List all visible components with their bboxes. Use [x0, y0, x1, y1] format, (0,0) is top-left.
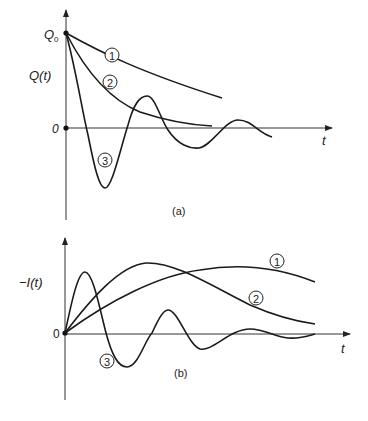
label-a-2: 2: [107, 77, 113, 89]
zero-label-b: 0: [53, 327, 60, 341]
label-b-1: 1: [274, 256, 280, 268]
q0-subscript: 0: [54, 35, 59, 44]
q0-label: Q: [44, 27, 54, 42]
curve-b-1: [65, 267, 315, 333]
x-label-b: t: [341, 341, 346, 356]
caption-a: (a): [172, 205, 185, 217]
y-label-a: Q(t): [29, 68, 51, 83]
curve-a-3: [66, 33, 272, 188]
x-label-a: t: [322, 133, 327, 148]
figure: 1 2 3 Q 0 Q(t) 0 t (a) 1 2 3 −I(t) 0 t (…: [0, 0, 368, 421]
curve-b-3: [65, 272, 315, 367]
label-a-3: 3: [102, 155, 108, 167]
origin-dot-a: [63, 125, 68, 130]
caption-b: (b): [174, 367, 187, 379]
panel-a: 1 2 3 Q 0 Q(t) 0 t (a): [29, 10, 332, 220]
zero-label-a: 0: [52, 122, 59, 136]
y-label-b: −I(t): [19, 275, 42, 290]
label-b-3: 3: [104, 356, 110, 368]
curve-a-1: [66, 33, 222, 98]
label-a-1: 1: [109, 50, 115, 62]
label-b-2: 2: [253, 293, 259, 305]
curve-a-2: [66, 33, 212, 126]
panel-b: 1 2 3 −I(t) 0 t (b): [19, 238, 350, 400]
curve-b-2: [65, 263, 315, 333]
